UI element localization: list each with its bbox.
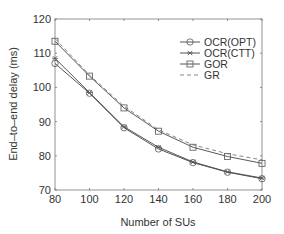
x-axis-label: Number of SUs xyxy=(120,216,196,228)
x-tick-label: 200 xyxy=(253,193,271,205)
y-tick-label: 90 xyxy=(39,116,51,128)
y-tick-label: 70 xyxy=(39,184,51,196)
series-ocr-opt- xyxy=(52,60,265,182)
legend-entry: GR xyxy=(180,69,220,81)
line-chart: 80100120140160180200708090100110120 OCR(… xyxy=(0,0,284,234)
legend: OCR(OPT)OCR(CTT)GORGR xyxy=(180,36,256,81)
series-line xyxy=(55,63,262,178)
legend-label: GR xyxy=(204,69,220,81)
x-tick-label: 180 xyxy=(218,193,236,205)
y-tick-label: 80 xyxy=(39,150,51,162)
y-axis-label: End–to–end delay (ms) xyxy=(7,47,19,161)
data-series xyxy=(52,38,265,182)
series-line xyxy=(55,41,262,163)
series-line xyxy=(55,58,262,178)
x-tick-label: 100 xyxy=(80,193,98,205)
x-tick-label: 120 xyxy=(115,193,133,205)
y-tick-label: 110 xyxy=(33,47,51,59)
x-tick-label: 160 xyxy=(184,193,202,205)
series-ocr-ctt- xyxy=(52,56,265,180)
y-tick-label: 120 xyxy=(33,13,51,25)
chart-canvas: 80100120140160180200708090100110120 OCR(… xyxy=(0,0,284,234)
x-tick-label: 140 xyxy=(149,193,167,205)
y-tick-label: 100 xyxy=(33,81,51,93)
